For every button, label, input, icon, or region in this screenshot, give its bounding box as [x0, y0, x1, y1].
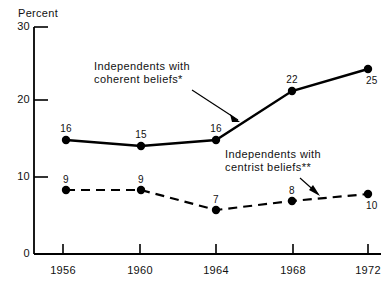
series-centrist-point-1956 — [62, 186, 70, 194]
x-tick-label-1968: 1968 — [273, 264, 313, 276]
series-coherent-point-1968 — [288, 87, 296, 95]
point-label-centrist-1968: 8 — [284, 185, 300, 196]
annotation-coherent: Independents with coherent beliefs* — [94, 60, 190, 86]
point-label-coherent-1956: 16 — [56, 123, 76, 134]
series-centrist-point-1968 — [288, 197, 296, 205]
chart-plot-area — [0, 0, 388, 287]
series-coherent-point-1956 — [62, 136, 70, 144]
annotation-centrist: Independents with centrist beliefs** — [225, 148, 321, 174]
x-tick-label-1956: 1956 — [43, 264, 83, 276]
point-label-centrist-1964: 7 — [208, 194, 224, 205]
point-label-coherent-1968: 22 — [282, 74, 302, 85]
y-tick-label-20: 20 — [8, 93, 30, 105]
series-coherent-point-1972 — [364, 65, 372, 73]
annotation-centrist-line1: Independents with — [225, 148, 321, 161]
point-label-centrist-1960: 9 — [133, 174, 149, 185]
y-tick-label-30: 30 — [8, 20, 30, 32]
centrist-annotation-arrow — [300, 178, 320, 196]
annotation-coherent-line1: Independents with — [94, 60, 190, 73]
chart-container: Percent 30 20 10 0 1956 1960 1964 1968 1… — [0, 0, 388, 287]
point-label-coherent-1960: 15 — [131, 129, 151, 140]
series-centrist-point-1972 — [364, 190, 372, 198]
point-label-centrist-1972: 10 — [366, 200, 386, 211]
series-coherent-point-1960 — [137, 142, 145, 150]
y-axis-title: Percent — [18, 7, 58, 19]
point-label-coherent-1964: 16 — [206, 123, 226, 134]
x-tick-label-1972: 1972 — [348, 264, 388, 276]
series-centrist-point-1960 — [137, 186, 145, 194]
series-centrist-point-1964 — [212, 206, 220, 214]
x-tick-label-1960: 1960 — [120, 264, 160, 276]
point-label-coherent-1972: 25 — [366, 75, 386, 86]
series-coherent-point-1964 — [212, 136, 220, 144]
y-tick-label-0: 0 — [8, 247, 30, 259]
y-tick-label-10: 10 — [8, 170, 30, 182]
point-label-centrist-1956: 9 — [58, 174, 74, 185]
annotation-coherent-line2: coherent beliefs* — [94, 73, 190, 86]
x-tick-label-1964: 1964 — [196, 264, 236, 276]
coherent-annotation-arrow — [192, 90, 240, 122]
annotation-centrist-line2: centrist beliefs** — [225, 161, 321, 174]
